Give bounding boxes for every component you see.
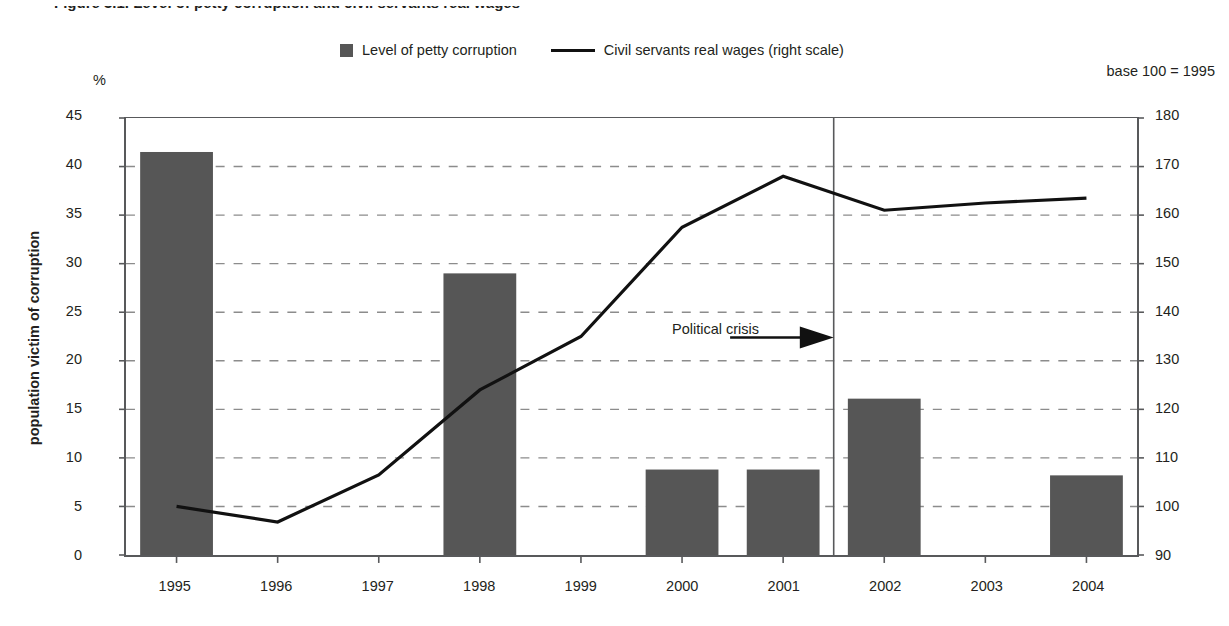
legend-label-petty-corruption: Level of petty corruption — [362, 42, 517, 58]
x-axis-tick-2003: 2003 — [942, 578, 1032, 594]
x-tick-marks-group — [177, 555, 1087, 563]
legend-item-real-wages: Civil servants real wages (right scale) — [551, 42, 844, 58]
right-axis-tick-180: 180 — [1155, 107, 1215, 123]
bar-2002 — [848, 399, 921, 555]
legend-item-petty-corruption: Level of petty corruption — [340, 42, 517, 58]
line-series-group — [177, 176, 1087, 522]
left-axis-tick-35: 35 — [22, 205, 82, 221]
bar-2004 — [1050, 475, 1123, 555]
bar-series-group — [140, 152, 1123, 555]
right-axis-tick-90: 90 — [1155, 547, 1215, 563]
left-axis-tick-5: 5 — [22, 498, 82, 514]
left-axis-tick-0: 0 — [22, 547, 82, 563]
legend-label-real-wages: Civil servants real wages (right scale) — [604, 42, 844, 58]
figure-title: Figure 3.1. Level of petty corruption an… — [54, 0, 520, 11]
legend-line-icon — [551, 49, 595, 52]
chart-canvas — [126, 118, 1137, 555]
left-axis-tick-40: 40 — [22, 156, 82, 172]
right-axis-tick-130: 130 — [1155, 351, 1215, 367]
real-wages-line — [177, 176, 1087, 522]
x-axis-tick-1995: 1995 — [130, 578, 220, 594]
right-axis-tick-110: 110 — [1155, 449, 1215, 465]
legend-square-swatch-icon — [340, 44, 353, 57]
right-axis-tick-150: 150 — [1155, 254, 1215, 270]
right-tick-marks-group — [1137, 118, 1144, 555]
right-axis-tick-100: 100 — [1155, 498, 1215, 514]
x-axis-tick-1997: 1997 — [333, 578, 423, 594]
plot-area — [124, 117, 1139, 557]
chart-legend: Level of petty corruption Civil servants… — [340, 42, 844, 58]
left-axis-tick-10: 10 — [22, 449, 82, 465]
x-axis-tick-2002: 2002 — [840, 578, 930, 594]
political-crisis-label: Political crisis — [672, 321, 759, 337]
x-axis-tick-2000: 2000 — [637, 578, 727, 594]
right-axis-tick-160: 160 — [1155, 205, 1215, 221]
bar-1998 — [443, 273, 516, 555]
x-axis-tick-1998: 1998 — [434, 578, 524, 594]
left-axis-tick-25: 25 — [22, 303, 82, 319]
left-axis-tick-15: 15 — [22, 400, 82, 416]
x-axis-tick-2004: 2004 — [1043, 578, 1133, 594]
left-tick-marks-group — [119, 118, 126, 555]
bar-2001 — [747, 470, 820, 555]
x-axis-tick-2001: 2001 — [739, 578, 829, 594]
left-axis-tick-45: 45 — [22, 107, 82, 123]
left-axis-unit-label: % — [93, 72, 106, 88]
gridlines-group — [126, 167, 1137, 507]
left-axis-tick-20: 20 — [22, 351, 82, 367]
x-axis-tick-1999: 1999 — [536, 578, 626, 594]
bar-1995 — [140, 152, 213, 555]
right-axis-tick-120: 120 — [1155, 400, 1215, 416]
x-axis-tick-1996: 1996 — [231, 578, 321, 594]
bar-2000 — [646, 470, 719, 555]
right-axis-tick-140: 140 — [1155, 303, 1215, 319]
right-axis-tick-170: 170 — [1155, 156, 1215, 172]
y-axis-title: population victim of corruption — [26, 193, 42, 483]
base-index-note: base 100 = 1995 — [1107, 63, 1215, 79]
left-axis-tick-30: 30 — [22, 254, 82, 270]
